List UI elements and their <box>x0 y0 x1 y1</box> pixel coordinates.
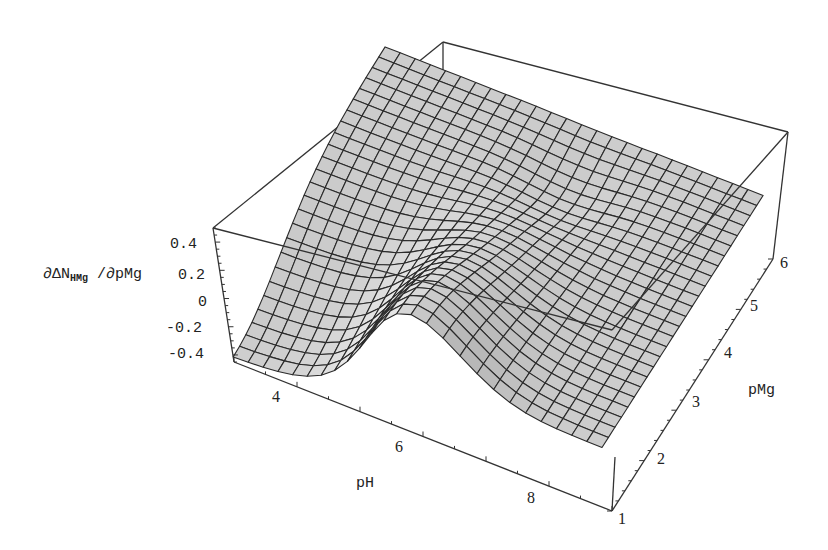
y-axis-label: pMg <box>748 382 775 399</box>
y-tick-label: 6 <box>780 254 788 272</box>
y-tick-label: 5 <box>750 297 758 315</box>
z-tick-label: 0 <box>198 294 207 311</box>
z-tick-label: 0.2 <box>178 267 205 284</box>
surface-mesh <box>233 47 763 448</box>
z-tick-label: 0.4 <box>170 236 197 253</box>
z-axis-label-prefix: ∂ΔN <box>43 266 70 283</box>
x-axis-label: pH <box>356 475 374 492</box>
z-tick-label: -0.2 <box>166 320 202 337</box>
y-tick-label: 3 <box>692 393 700 411</box>
y-tick-label: 4 <box>724 344 732 362</box>
y-tick-label: 1 <box>618 510 626 528</box>
x-tick-label: 6 <box>395 438 403 456</box>
y-tick-label: 2 <box>657 450 665 468</box>
z-axis-label-subscript: HMg <box>70 273 88 284</box>
x-tick-label: 4 <box>272 388 280 406</box>
z-axis-label: ∂ΔNHMg /∂pMg <box>43 266 142 284</box>
z-axis-label-suffix: /∂pMg <box>88 266 142 283</box>
z-tick-label: -0.4 <box>168 346 204 363</box>
x-tick-label: 8 <box>527 489 535 507</box>
